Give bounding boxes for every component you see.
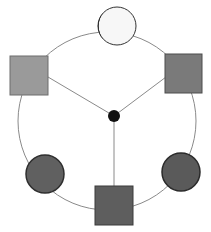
node-lower-left-circle [26,155,64,193]
node-lower-right-circle [162,153,200,191]
spoke-upper-left [48,77,114,116]
diagram-canvas [0,0,211,232]
node-upper-left-square [10,56,48,95]
node-bottom-square [95,186,133,225]
spoke-upper-right [114,77,166,116]
hub-node [108,110,120,122]
network-diagram [0,0,211,232]
node-upper-right-square [165,54,202,93]
node-top-circle [98,7,136,45]
